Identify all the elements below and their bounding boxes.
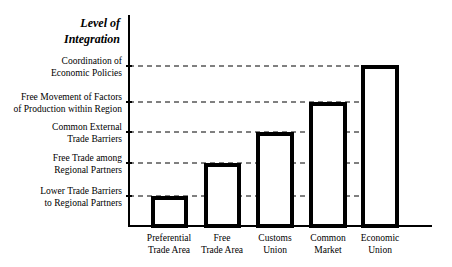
y-label-level-1: Lower Trade Barriers to Regional Partner… (40, 185, 122, 209)
y-axis-title-line2: Integration (64, 31, 120, 47)
y-label-line2: to Regional Partners (40, 197, 122, 209)
y-label-line1: Common External (52, 121, 122, 133)
bar-economic-union (363, 67, 397, 226)
x-label-line2: Union (345, 244, 415, 256)
y-label-level-5: Coordination of Economic Policies (51, 55, 122, 79)
y-label-level-3: Common External Trade Barriers (52, 121, 122, 145)
bar-customs-union (258, 134, 292, 226)
x-label-economic-union: Economic Union (345, 232, 415, 256)
y-label-line2: Economic Policies (51, 67, 122, 79)
y-axis-title-line1: Level of (64, 15, 120, 31)
y-label-line1: Lower Trade Barriers (40, 185, 122, 197)
bar-preferential-trade-area (153, 198, 186, 226)
bar-free-trade-area (206, 165, 239, 226)
bar-common-market (311, 104, 345, 226)
y-label-line1: Free Movement of Factors (14, 91, 122, 103)
y-axis-title: Level of Integration (64, 15, 120, 47)
y-label-line1: Coordination of (51, 55, 122, 67)
y-label-line2: Trade Barriers (52, 133, 122, 145)
y-label-level-4: Free Movement of Factors of Production w… (14, 91, 122, 115)
y-label-line1: Free Trade among (53, 152, 122, 164)
bars (153, 67, 397, 226)
y-label-line2: of Production within Region (14, 103, 122, 115)
y-label-level-2: Free Trade among Regional Partners (53, 152, 122, 176)
y-label-line2: Regional Partners (53, 164, 122, 176)
integration-chart: Level of Integration Coordination of Eco… (0, 0, 452, 267)
x-label-line1: Economic (345, 232, 415, 244)
